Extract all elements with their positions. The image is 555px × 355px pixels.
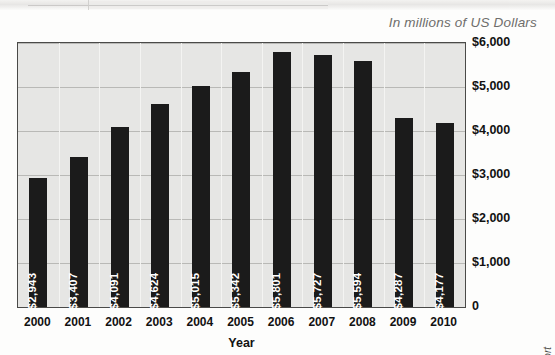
- x-tick-2003: 2003: [139, 315, 180, 329]
- gridline-vertical: [343, 43, 344, 307]
- bar-value-label: $4,624: [148, 273, 160, 310]
- bar-2004: $5,015: [192, 86, 210, 307]
- y-tick-$1,000: $1,000: [472, 256, 510, 269]
- bar-value-label: $4,177: [433, 273, 445, 310]
- bar-value-label: $5,727: [311, 273, 323, 310]
- gridline-vertical: [59, 43, 60, 307]
- gridline-horizontal: [18, 43, 465, 44]
- bar-value-label: $3,407: [67, 273, 79, 310]
- bar-value-label: $5,801: [270, 273, 282, 310]
- gridline-vertical: [99, 43, 100, 307]
- bar-2003: $4,624: [151, 104, 169, 307]
- x-tick-2000: 2000: [17, 315, 58, 329]
- bar-value-label: $5,015: [189, 273, 201, 310]
- y-tick-$2,000: $2,000: [472, 212, 510, 225]
- bar-value-label: $4,091: [108, 273, 120, 310]
- plot-area: $2,943$3,407$4,091$4,624$5,015$5,342$5,8…: [17, 42, 466, 308]
- gridline-vertical: [140, 43, 141, 307]
- gridline-vertical: [262, 43, 263, 307]
- x-tick-2005: 2005: [220, 315, 261, 329]
- gridline-vertical: [221, 43, 222, 307]
- chart-subtitle: In millions of US Dollars: [389, 15, 537, 30]
- y-tick-$4,000: $4,000: [472, 124, 510, 137]
- y-tick-$6,000: $6,000: [472, 36, 510, 49]
- x-tick-2001: 2001: [58, 315, 99, 329]
- x-tick-2006: 2006: [261, 315, 302, 329]
- y-tick-$5,000: $5,000: [472, 80, 510, 93]
- x-tick-2008: 2008: [342, 315, 383, 329]
- bar-2009: $4,287: [395, 118, 413, 307]
- source-note: Source: Harley-Davidson 2010 Annual Repo…: [542, 347, 553, 355]
- bar-2005: $5,342: [232, 72, 250, 307]
- y-tick-$3,000: $3,000: [472, 168, 510, 181]
- bar-2008: $5,594: [354, 61, 372, 307]
- bar-2000: $2,943: [29, 178, 47, 307]
- bar-2006: $5,801: [273, 52, 291, 307]
- y-tick-0: 0: [472, 300, 479, 313]
- bar-value-label: $4,287: [392, 273, 404, 310]
- bar-2010: $4,177: [436, 123, 454, 307]
- bar-2001: $3,407: [70, 157, 88, 307]
- x-tick-2009: 2009: [383, 315, 424, 329]
- bar-value-label: $5,342: [229, 273, 241, 310]
- x-tick-2007: 2007: [301, 315, 342, 329]
- gridline-vertical: [424, 43, 425, 307]
- bar-value-label: $2,943: [26, 273, 38, 310]
- bar-2007: $5,727: [314, 55, 332, 307]
- x-axis-title: Year: [0, 336, 483, 350]
- bar-value-label: $5,594: [351, 273, 363, 310]
- x-tick-2002: 2002: [98, 315, 139, 329]
- x-tick-2010: 2010: [423, 315, 464, 329]
- gridline-vertical: [302, 43, 303, 307]
- source-text: Harley-Davidson 2010 Annual Report: [542, 347, 553, 355]
- gridline-vertical: [181, 43, 182, 307]
- gridline-vertical: [384, 43, 385, 307]
- x-tick-2004: 2004: [180, 315, 221, 329]
- bar-2002: $4,091: [111, 127, 129, 307]
- bar-chart-figure: In millions of US Dollars $2,943$3,407$4…: [0, 0, 555, 355]
